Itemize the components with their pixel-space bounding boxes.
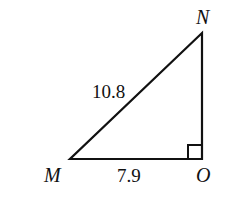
triangle-mno <box>70 33 202 159</box>
vertex-label-m: M <box>43 164 62 186</box>
side-label-mo: 7.9 <box>117 165 141 186</box>
side-label-mn: 10.8 <box>92 81 125 102</box>
vertex-label-n: N <box>195 6 211 28</box>
right-angle-marker <box>188 145 202 159</box>
vertex-label-o: O <box>196 164 210 186</box>
triangle-diagram: N M O 10.8 7.9 <box>0 0 252 205</box>
